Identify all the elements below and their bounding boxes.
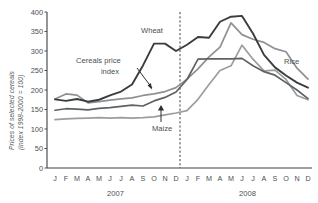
y-axis-title-line1: Prices of selected cereals bbox=[8, 70, 15, 150]
maize-annotation: Maize bbox=[152, 105, 172, 133]
cereals-price-index-annotation: Cereals priceindex bbox=[76, 56, 152, 90]
y-axis-tick-labels: 050100150200250300350400 bbox=[31, 8, 43, 173]
x-tick-label-month: N bbox=[294, 174, 299, 183]
x-axis-month-labels: JFMAMJJASONDJFMAMJJASOND bbox=[53, 174, 310, 183]
y-tick-label: 150 bbox=[31, 105, 43, 114]
x-tick-label-month: F bbox=[64, 174, 69, 183]
x-tick-label-month: A bbox=[130, 174, 135, 183]
y-axis-title-line2: (index 1998-2000 = 100) bbox=[17, 75, 25, 151]
y-tick-label: 50 bbox=[35, 144, 43, 153]
x-tick-label-month: N bbox=[162, 174, 167, 183]
x-tick-label-month: J bbox=[108, 174, 112, 183]
x-tick-label-month: A bbox=[218, 174, 223, 183]
x-tick-label-month: S bbox=[273, 174, 278, 183]
x-tick-label-month: A bbox=[86, 174, 91, 183]
rice-label: Rice bbox=[284, 57, 299, 66]
x-tick-label-month: J bbox=[119, 174, 123, 183]
x-tick-label-month: M bbox=[74, 174, 80, 183]
x-tick-label-month: D bbox=[305, 174, 310, 183]
wheat-label: Wheat bbox=[141, 26, 164, 35]
series-lines bbox=[55, 16, 308, 120]
x-tick-label-month: M bbox=[206, 174, 212, 183]
x-tick-label-month: J bbox=[53, 174, 57, 183]
x-axis-year-label: 2008 bbox=[239, 189, 256, 198]
x-axis-year-label: 2007 bbox=[107, 189, 124, 198]
x-tick-label-month: O bbox=[283, 174, 289, 183]
cereals-price-index-label-line1: Cereals price bbox=[76, 56, 121, 65]
y-tick-label: 250 bbox=[31, 66, 43, 75]
y-tick-label: 200 bbox=[31, 86, 43, 95]
y-tick-label: 400 bbox=[31, 8, 43, 17]
x-tick-label-month: J bbox=[251, 174, 255, 183]
x-tick-label-month: A bbox=[262, 174, 267, 183]
y-tick-label: 100 bbox=[31, 125, 43, 134]
x-tick-label-month: M bbox=[96, 174, 102, 183]
x-tick-label-month: D bbox=[173, 174, 178, 183]
maize-arrowhead bbox=[158, 105, 164, 111]
x-tick-label-month: F bbox=[196, 174, 201, 183]
cereal-prices-line-chart: Prices of selected cereals (index 1998-2… bbox=[0, 0, 318, 203]
maize-label: Maize bbox=[152, 124, 172, 133]
y-tick-label: 350 bbox=[31, 27, 43, 36]
x-tick-label-month: S bbox=[141, 174, 146, 183]
x-tick-label-month: O bbox=[151, 174, 157, 183]
y-tick-label: 0 bbox=[39, 164, 43, 173]
cereals-price-index-arrowhead bbox=[148, 83, 152, 90]
cereals-price-index-label-line2: index bbox=[101, 67, 119, 76]
y-tick-label: 300 bbox=[31, 47, 43, 56]
x-tick-label-month: M bbox=[228, 174, 234, 183]
y-axis-title: Prices of selected cereals (index 1998-2… bbox=[8, 70, 25, 150]
x-tick-label-month: J bbox=[240, 174, 244, 183]
x-tick-label-month: J bbox=[185, 174, 189, 183]
x-axis-year-labels: 20072008 bbox=[107, 189, 256, 198]
